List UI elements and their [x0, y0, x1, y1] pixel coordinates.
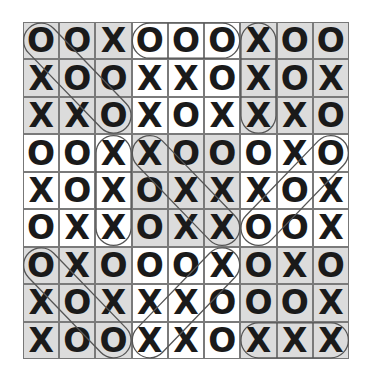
grid-cell: X	[59, 209, 95, 246]
x-mark: X	[101, 211, 126, 244]
grid-cell: X	[23, 322, 59, 359]
o-mark: O	[281, 286, 309, 319]
o-mark: O	[172, 137, 200, 170]
x-mark: X	[137, 137, 162, 170]
x-mark: X	[209, 174, 234, 207]
x-mark: X	[28, 324, 53, 357]
grid-cell: O	[59, 134, 95, 171]
x-mark: X	[209, 211, 234, 244]
x-mark: X	[28, 174, 53, 207]
grid-cell: O	[313, 97, 349, 134]
o-mark: O	[208, 137, 236, 170]
grid-cell: X	[204, 247, 240, 284]
grid-cell: X	[277, 247, 313, 284]
x-mark: X	[65, 249, 90, 282]
x-mark: X	[246, 174, 271, 207]
grid-cell: X	[132, 322, 168, 359]
o-mark: O	[208, 324, 236, 357]
grid-cell: O	[132, 22, 168, 59]
grid-cell: X	[240, 22, 276, 59]
grid-cell: O	[313, 22, 349, 59]
grid-cell: X	[23, 172, 59, 209]
grid-cell: O	[204, 134, 240, 171]
grid-cell: O	[277, 59, 313, 96]
grid-cell: X	[132, 134, 168, 171]
x-mark: X	[28, 99, 53, 132]
grid-cell: O	[59, 172, 95, 209]
grid-cell: O	[313, 134, 349, 171]
grid-cell: O	[204, 284, 240, 321]
x-mark: X	[137, 99, 162, 132]
o-mark: O	[136, 249, 164, 282]
grid-cell: X	[240, 59, 276, 96]
grid-cell: X	[59, 97, 95, 134]
grid-cell: O	[277, 22, 313, 59]
x-mark: X	[101, 137, 126, 170]
grid-cell: O	[240, 247, 276, 284]
x-mark: X	[173, 286, 198, 319]
o-mark: O	[208, 286, 236, 319]
x-mark: X	[246, 24, 271, 57]
o-mark: O	[63, 174, 91, 207]
grid-cell: O	[23, 22, 59, 59]
x-mark: X	[173, 211, 198, 244]
o-mark: O	[244, 137, 272, 170]
grid-cell: O	[204, 322, 240, 359]
grid-cell: O	[23, 247, 59, 284]
x-mark: X	[318, 286, 343, 319]
x-mark: X	[101, 174, 126, 207]
grid-cell: O	[132, 209, 168, 246]
o-mark: O	[172, 99, 200, 132]
grid-cell: O	[277, 172, 313, 209]
grid-cell: X	[23, 97, 59, 134]
o-mark: O	[63, 24, 91, 57]
o-mark: O	[281, 62, 309, 95]
grid-cell: X	[313, 322, 349, 359]
o-mark: O	[172, 24, 200, 57]
grid-cell: O	[132, 247, 168, 284]
o-mark: O	[317, 249, 345, 282]
o-mark: O	[27, 24, 55, 57]
grid-cell: O	[59, 284, 95, 321]
x-mark: X	[173, 62, 198, 95]
grid-cell: O	[313, 247, 349, 284]
x-mark: X	[318, 324, 343, 357]
grid-cell: X	[240, 97, 276, 134]
x-mark: X	[101, 24, 126, 57]
grid-cell: X	[204, 172, 240, 209]
grid-cell: O	[132, 172, 168, 209]
tic-tac-toe-grid: OOXOOOXOOXOOXXOXOXXXOXOXXXOOOXXOOOXOXOXO…	[23, 22, 349, 359]
o-mark: O	[281, 24, 309, 57]
grid-cell: X	[240, 322, 276, 359]
o-mark: O	[244, 249, 272, 282]
grid-cell: X	[277, 134, 313, 171]
grid-cell: O	[168, 97, 204, 134]
grid-cell: O	[240, 284, 276, 321]
grid-cell: X	[313, 209, 349, 246]
grid-cell: O	[277, 209, 313, 246]
x-mark: X	[282, 99, 307, 132]
x-mark: X	[282, 137, 307, 170]
grid-cell: X	[132, 59, 168, 96]
grid-cell: X	[313, 284, 349, 321]
o-mark: O	[317, 99, 345, 132]
x-mark: X	[246, 62, 271, 95]
o-mark: O	[136, 174, 164, 207]
grid-cell: O	[59, 322, 95, 359]
x-mark: X	[101, 286, 126, 319]
o-mark: O	[317, 24, 345, 57]
grid-cell: X	[23, 59, 59, 96]
x-mark: X	[282, 324, 307, 357]
grid-cell: X	[240, 172, 276, 209]
grid-cell: O	[95, 247, 131, 284]
x-mark: X	[137, 286, 162, 319]
grid-cell: O	[95, 59, 131, 96]
grid-cell: O	[23, 209, 59, 246]
o-mark: O	[136, 24, 164, 57]
grid-cell: X	[168, 59, 204, 96]
grid-cell: O	[95, 322, 131, 359]
o-mark: O	[63, 62, 91, 95]
grid-cell: O	[168, 134, 204, 171]
grid-cell: O	[168, 247, 204, 284]
grid-cell: X	[95, 209, 131, 246]
